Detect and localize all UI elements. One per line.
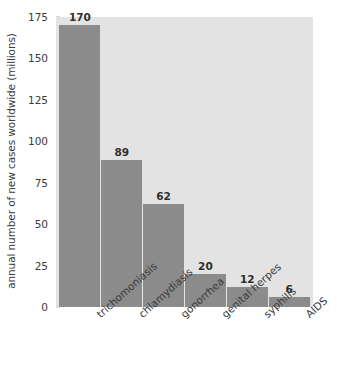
bar-value-label: 89 <box>114 146 129 158</box>
bar[interactable] <box>59 25 100 307</box>
bar-chart-figure: annual number of new cases worldwide (mi… <box>0 0 337 392</box>
y-axis-tick-label: 0 <box>41 301 48 313</box>
y-axis-tick-label: 125 <box>28 94 48 106</box>
x-axis-tick-label: chlamydiasis <box>136 311 144 320</box>
y-axis-tick-label: 25 <box>35 260 48 272</box>
bar-value-label: 62 <box>156 190 171 202</box>
y-axis-tick-label: 175 <box>28 11 48 23</box>
y-axis-tick-label: 75 <box>35 177 48 189</box>
y-axis-tick-label: 150 <box>28 52 48 64</box>
y-axis-tick-label: 50 <box>35 218 48 230</box>
x-axis-tick-label-group: trichomoniasischlamydiasisgonorrheagenit… <box>56 307 313 392</box>
x-axis-tick-label: syphilis <box>261 311 269 320</box>
bar-value-label: 20 <box>198 260 213 272</box>
y-axis-tick-label: 100 <box>28 135 48 147</box>
x-axis-tick-label: genital herpes <box>219 311 227 320</box>
x-axis-tick-label: gonorrhea <box>178 311 186 320</box>
bar-slot: 12 <box>226 17 268 307</box>
y-axis-tick-group: 0255075100125150175 <box>0 17 56 307</box>
bar-slot: 170 <box>59 17 101 307</box>
bar-slot: 20 <box>184 17 226 307</box>
bar-value-label: 170 <box>69 11 91 23</box>
bar-slot: 89 <box>101 17 143 307</box>
x-axis-tick-label: AIDS <box>303 311 311 320</box>
x-axis-tick-label: trichomoniasis <box>94 311 102 320</box>
